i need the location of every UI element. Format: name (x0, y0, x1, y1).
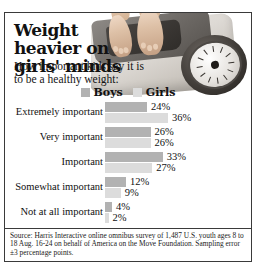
bar-girls (105, 213, 109, 223)
category-label: Important (5, 156, 103, 167)
value-label: 2% (113, 212, 127, 223)
toe (147, 45, 152, 51)
category-label: Very important (5, 131, 103, 142)
chart-row: Somewhat important12%9% (5, 177, 251, 202)
bar-boys (105, 177, 126, 187)
bar-girls (105, 188, 121, 198)
bar-boys (105, 127, 151, 137)
value-label: 27% (156, 162, 175, 173)
infographic-panel: Weight heavier on girls' minds How impor… (4, 12, 252, 262)
chart-row: Extremely important24%36% (5, 102, 251, 127)
bar-girls (105, 163, 152, 173)
category-label: Extremely important (5, 106, 103, 117)
bar-boys (105, 202, 112, 212)
bar-chart: Extremely important24%36%Very important2… (5, 102, 251, 230)
value-label: 33% (167, 151, 186, 162)
legend-label-boys: Boys (94, 86, 123, 99)
bar-girls (105, 138, 151, 148)
legend-swatch-boys (81, 88, 90, 97)
source-note: Source: Harris Interactive online omnibu… (5, 228, 251, 261)
bar-boys (105, 102, 147, 112)
value-label: 36% (172, 112, 191, 123)
value-label: 24% (151, 101, 170, 112)
toe (153, 43, 158, 49)
bar-girls (105, 113, 168, 123)
chart-legend: Boys Girls (5, 85, 251, 99)
value-label: 9% (125, 187, 139, 198)
chart-subtitle: How important kids say it is to be a hea… (14, 60, 154, 85)
value-label: 26% (155, 137, 174, 148)
chart-row: Very important26%26% (5, 127, 251, 152)
scale-dial-needle-hub (210, 60, 219, 69)
legend-item-girls: Girls (133, 86, 176, 99)
value-label: 12% (130, 176, 149, 187)
chart-row: Not at all important4%2% (5, 202, 251, 227)
bar-boys (105, 152, 163, 162)
chart-row: Important33%27% (5, 152, 251, 177)
value-label: 4% (116, 201, 130, 212)
category-label: Not at all important (5, 206, 103, 217)
legend-label-girls: Girls (146, 86, 176, 99)
legend-item-boys: Boys (81, 86, 123, 99)
value-label: 26% (155, 126, 174, 137)
legend-swatch-girls (133, 88, 142, 97)
category-label: Somewhat important (5, 181, 103, 192)
